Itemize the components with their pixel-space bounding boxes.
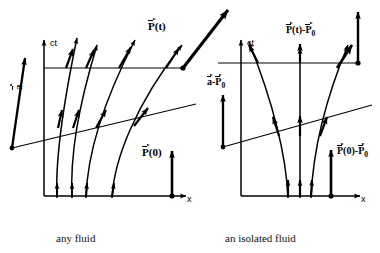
ct-axis-label-right: ct: [247, 38, 254, 48]
top-arrow-3-left: [119, 47, 131, 68]
tilted-line-right: [223, 105, 372, 147]
ct-axis-label-left: ct: [50, 38, 57, 48]
sub-zero-1: 0: [221, 81, 225, 90]
P-of-0-label-left: P(0): [142, 144, 162, 158]
P-of-0-minus-P0-label-right: P(0)-P0: [337, 143, 368, 159]
caption-isolated-fluid: an isolated fluid: [225, 232, 296, 244]
panel-isolated-fluid: [218, 12, 372, 199]
panel-any-fluid: [10, 10, 228, 199]
sub-zero-2: 0: [312, 29, 316, 38]
bottom-tick-arrow-3-left: [86, 183, 87, 197]
sub-zero-3: 0: [364, 150, 368, 159]
bottom-tick-arrow-3-right: [311, 180, 312, 197]
P-of-t-arg-left: (t): [155, 20, 166, 32]
mid-arrow-3-left: [96, 110, 106, 128]
P-of-0-arg-left: (0): [149, 146, 162, 158]
x-axis-label-right: x: [361, 194, 366, 204]
a-minus-P0-label-right: a-P0: [207, 74, 225, 90]
P-of-t-minus-P0-label-right: P(t)-P0: [286, 22, 315, 38]
worldline-1-right: [249, 42, 288, 198]
worldline-3-right: [311, 45, 348, 198]
a-vector-label-left: a: [10, 85, 24, 91]
P-of-t-label-left: P(t): [148, 18, 166, 32]
caption-any-fluid: any fluid: [56, 232, 95, 244]
P-of-0-arg-right: (0): [343, 145, 355, 156]
top-arrow-4-left: [166, 48, 179, 68]
P-of-t-arrow-left: [183, 10, 228, 68]
P-of-t-arg-right: (t): [292, 24, 302, 35]
bottom-tick-arrow-4-left: [112, 183, 114, 197]
x-axis-label-left: x: [187, 194, 192, 204]
a-vector-arrow-left: [12, 58, 25, 148]
top-arrow-3-right: [337, 45, 352, 68]
worldline-3-left: [86, 40, 135, 198]
